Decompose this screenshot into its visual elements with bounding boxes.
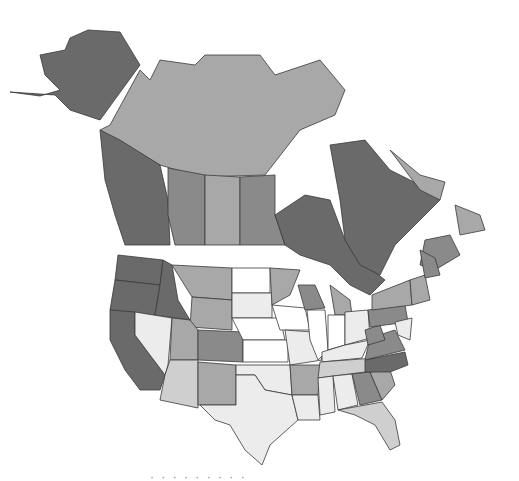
region-UT [170, 318, 198, 360]
region-MB [240, 175, 285, 245]
region-SD [232, 293, 272, 318]
region-NM [198, 362, 236, 405]
region-CO [198, 330, 243, 362]
region-MI [330, 285, 352, 315]
region-MN [270, 268, 300, 305]
region-OR [110, 280, 160, 315]
region-WY [190, 297, 232, 330]
region-WI [298, 285, 325, 310]
region-AB [168, 168, 205, 245]
region-IN [328, 315, 345, 350]
region-MS [318, 376, 335, 415]
region-OH [345, 310, 370, 345]
region-ND [232, 268, 270, 293]
region-FL [338, 402, 400, 450]
region-SK [205, 175, 240, 245]
region-NE_US [410, 275, 430, 305]
region-KS [243, 340, 288, 362]
map-caption: · · · · · · · · · [150, 470, 247, 481]
region-AR [290, 365, 320, 395]
north-america-choropleth-map [0, 0, 519, 481]
region-MT [172, 265, 232, 300]
